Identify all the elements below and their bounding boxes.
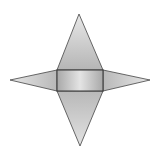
bottom-triangle-face: [57, 91, 103, 146]
net-svg: [0, 0, 155, 155]
right-triangle-face: [103, 70, 150, 91]
top-triangle-face: [57, 14, 103, 70]
pyramid-net-diagram: [0, 0, 155, 155]
left-triangle-face: [10, 70, 57, 91]
base-rectangle-face: [57, 70, 103, 91]
